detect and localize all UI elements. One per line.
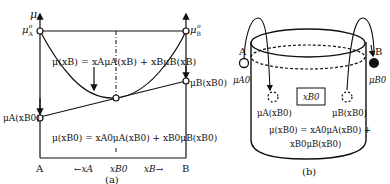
tangent-equation: μ(xB0) = xA0μA(xB0) + xB0μB(xB0) xyxy=(52,133,217,143)
equation-b-line1: μ(xB0) = xA0μA(xB0) + xyxy=(269,125,371,135)
mu-b-xb0-b-label: μB(xB0) xyxy=(332,108,367,118)
diagram-canvas: μ μAo μBo μB(xB0) μA(xB0) μ(xB) = xAμA(x… xyxy=(0,0,390,184)
point-mu-b-xb0 xyxy=(183,78,189,84)
box-label: xB0 xyxy=(303,92,320,102)
x-arrow-left: ←xA xyxy=(74,164,94,174)
mu-b0-b-label: μB0 xyxy=(369,75,387,85)
caption-b: (b) xyxy=(302,166,316,177)
point-tangent xyxy=(113,95,119,101)
label-b: B xyxy=(375,46,382,57)
mu-a-xb0-b-label: μA(xB0) xyxy=(257,108,292,118)
x-left-label: A xyxy=(35,163,44,174)
panel-b: xB0 A B μA0 μB0 μA(xB0) μB(xB0) μ(xB0) =… xyxy=(233,18,387,177)
curve-equation: μ(xB) = xAμA(xB) + xBμB(xB) xyxy=(52,56,196,67)
point-mu-b0 xyxy=(183,28,189,34)
equation-b-line2: xB0μB(xB0) xyxy=(290,139,341,149)
mu-a0-b-label: μA0 xyxy=(233,75,251,85)
panel-a: μ μAo μBo μB(xB0) μA(xB0) μ(xB) = xAμA(x… xyxy=(3,8,227,184)
mu-a0-label: μAo xyxy=(22,22,34,37)
mu-a-xb0-label: μA(xB0) xyxy=(3,113,40,123)
x-mid-label: xB0 xyxy=(110,164,128,174)
x-arrow-right: xB→ xyxy=(144,164,164,174)
mu-b-xb0-label: μB(xB0) xyxy=(190,78,227,88)
mu-b0-label: μBo xyxy=(190,22,202,37)
species-b-circle xyxy=(369,58,379,68)
point-mu-a0 xyxy=(37,28,43,34)
label-a: A xyxy=(238,46,247,57)
arrow-head-b xyxy=(371,45,373,56)
species-a-circle xyxy=(240,59,249,68)
dissolved-a-circle xyxy=(268,92,278,102)
x-right-label: B xyxy=(182,163,189,174)
caption-a: (a) xyxy=(105,174,119,184)
dissolved-b-circle xyxy=(342,92,352,102)
y-axis-label: μ xyxy=(30,8,37,21)
